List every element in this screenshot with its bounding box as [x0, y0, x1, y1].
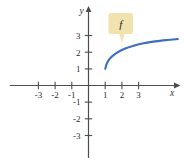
coordinate-plane: -3 -2 -1 1 2 3 3 2 1 -1 -2 -3 x y f [0, 0, 184, 166]
callout-tail [119, 34, 125, 44]
x-axis-label: x [169, 88, 175, 98]
x-axis-arrow-icon [174, 83, 181, 89]
y-tick-label-neg2: -2 [73, 114, 81, 124]
y-axis-label: y [78, 6, 84, 16]
x-tick-label-neg3: -3 [35, 90, 43, 100]
x-tick-label-neg2: -2 [51, 90, 59, 100]
y-tick-label-2: 2 [76, 48, 81, 58]
y-tick-label-neg3: -3 [73, 131, 81, 141]
y-tick-label-3: 3 [76, 31, 81, 41]
function-curve-f [105, 39, 178, 69]
y-tick-label-1: 1 [76, 64, 81, 74]
x-tick-label-1: 1 [103, 90, 108, 100]
x-tick-label-2: 2 [120, 90, 125, 100]
y-axis-arrow-icon [86, 6, 92, 12]
x-tick-label-3: 3 [136, 90, 141, 100]
y-tick-label-neg1: -1 [73, 97, 81, 107]
graph-figure: -3 -2 -1 1 2 3 3 2 1 -1 -2 -3 x y f [0, 0, 184, 166]
